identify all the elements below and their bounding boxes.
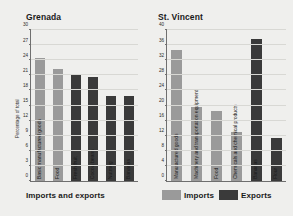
y-axis-tick-mark bbox=[165, 59, 167, 60]
y-axis-tick-label: 27 bbox=[23, 38, 28, 43]
bar-slot: Machinery and transportation equipment bbox=[187, 30, 207, 181]
legend-swatch-exports bbox=[219, 190, 238, 200]
gridline bbox=[31, 44, 138, 45]
y-axis-tick-label: 12 bbox=[159, 129, 164, 134]
chart-panel-grenada: Grenada Percentage of total Basic manufa… bbox=[0, 0, 148, 216]
y-axis-tick-label: 40 bbox=[159, 23, 164, 28]
chart-title-grenada: Grenada bbox=[26, 12, 61, 22]
gridline bbox=[167, 89, 286, 90]
y-axis-title-grenada: Percentage of total bbox=[16, 99, 21, 138]
gridline bbox=[31, 165, 138, 166]
bar-slot: Flour bbox=[266, 30, 286, 181]
plot-area-grenada: Basic manufactured goodsFoodFresh fruitC… bbox=[30, 30, 138, 182]
y-axis-tick-mark bbox=[29, 165, 31, 166]
bar-slot: Basic manufactured goods bbox=[31, 30, 49, 181]
y-axis-tick-mark bbox=[29, 44, 31, 45]
y-axis-tick-label: 28 bbox=[159, 68, 164, 73]
y-axis-tick-mark bbox=[29, 150, 31, 151]
y-axis-tick-mark bbox=[29, 59, 31, 60]
chart-title-stvincent: St. Vincent bbox=[158, 12, 203, 22]
y-axis-tick-mark bbox=[29, 89, 31, 90]
bar-slot: Bananas bbox=[120, 30, 138, 181]
bar-group-stvincent: Manufactured goodsMachinery and transpor… bbox=[167, 30, 286, 181]
y-axis-tick-mark bbox=[165, 165, 167, 166]
legend-label-imports: Imports bbox=[184, 191, 214, 200]
y-axis-tick-mark bbox=[165, 180, 167, 181]
legend-item-exports: Exports bbox=[219, 190, 272, 200]
legend-swatch-imports bbox=[162, 190, 181, 200]
bar-category-label: Nutmeg bbox=[109, 161, 114, 179]
figure-caption: Imports and exports bbox=[26, 191, 105, 200]
y-axis-tick-label: 0 bbox=[161, 174, 164, 179]
y-axis-tick-label: 6 bbox=[25, 144, 28, 149]
bar-category-label: Flour bbox=[274, 168, 279, 179]
y-axis-tick-mark bbox=[165, 150, 167, 151]
y-axis-tick-mark bbox=[165, 74, 167, 75]
y-axis-tick-label: 36 bbox=[159, 38, 164, 43]
gridline bbox=[31, 59, 138, 60]
chart-panel-stvincent: St. Vincent Manufactured goodsMachinery … bbox=[148, 0, 293, 216]
y-axis-tick-label: 20 bbox=[159, 99, 164, 104]
figure-imports-and-exports: Grenada Percentage of total Basic manufa… bbox=[0, 0, 293, 216]
bar-group-grenada: Basic manufactured goodsFoodFresh fruitC… bbox=[31, 30, 138, 181]
y-axis-tick-label: 18 bbox=[23, 84, 28, 89]
bar-slot: Manufactured goods bbox=[167, 30, 187, 181]
gridline bbox=[167, 150, 286, 151]
gridline bbox=[31, 29, 138, 30]
y-axis-tick-label: 4 bbox=[161, 159, 164, 164]
bar-slot: Cocoa beans bbox=[85, 30, 103, 181]
bar-category-label: Chemicals and chemical products bbox=[234, 104, 239, 179]
gridline bbox=[167, 29, 286, 30]
gridline bbox=[167, 44, 286, 45]
y-axis-tick-mark bbox=[29, 180, 31, 181]
y-axis-tick-mark bbox=[165, 89, 167, 90]
gridline bbox=[31, 120, 138, 121]
y-axis-tick-label: 3 bbox=[25, 159, 28, 164]
y-axis-tick-label: 24 bbox=[23, 53, 28, 58]
y-axis-tick-mark bbox=[29, 29, 31, 30]
y-axis-tick-mark bbox=[165, 44, 167, 45]
plot-area-stvincent: Manufactured goodsMachinery and transpor… bbox=[166, 30, 286, 182]
y-axis-tick-mark bbox=[165, 105, 167, 106]
bar-category-label: Fresh fruit bbox=[73, 156, 78, 179]
bar-category-label: Bananas bbox=[126, 159, 131, 179]
gridline bbox=[167, 165, 286, 166]
bar-slot: Food bbox=[49, 30, 67, 181]
bar-slot: Bananas bbox=[246, 30, 266, 181]
legend-item-imports: Imports bbox=[162, 190, 214, 200]
y-axis-tick-mark bbox=[29, 120, 31, 121]
legend: Imports Exports bbox=[162, 190, 272, 200]
y-axis-tick-mark bbox=[165, 120, 167, 121]
y-axis-tick-mark bbox=[29, 74, 31, 75]
y-axis-tick-mark bbox=[29, 135, 31, 136]
y-axis-tick-label: 24 bbox=[159, 84, 164, 89]
gridline bbox=[31, 105, 138, 106]
gridline bbox=[167, 74, 286, 75]
y-axis-tick-label: 30 bbox=[23, 23, 28, 28]
gridline bbox=[167, 105, 286, 106]
y-axis-tick-label: 12 bbox=[23, 114, 28, 119]
gridline bbox=[31, 74, 138, 75]
bar-category-label: Bananas bbox=[254, 159, 259, 179]
bar-slot: Chemicals and chemical products bbox=[227, 30, 247, 181]
y-axis-tick-mark bbox=[165, 135, 167, 136]
bar-category-label: Manufactured goods bbox=[174, 133, 179, 179]
y-axis-tick-label: 9 bbox=[25, 129, 28, 134]
bar-slot: Fresh fruit bbox=[67, 30, 85, 181]
y-axis-tick-label: 8 bbox=[161, 144, 164, 149]
legend-label-exports: Exports bbox=[241, 191, 272, 200]
gridline bbox=[167, 120, 286, 121]
bar-category-label: Food bbox=[55, 167, 60, 179]
y-axis-tick-label: 16 bbox=[159, 114, 164, 119]
bar-slot: Food bbox=[207, 30, 227, 181]
bar-category-label: Food bbox=[214, 168, 219, 179]
y-axis-tick-label: 21 bbox=[23, 68, 28, 73]
bar-slot: Nutmeg bbox=[102, 30, 120, 181]
gridline bbox=[167, 135, 286, 136]
y-axis-tick-label: 0 bbox=[25, 174, 28, 179]
y-axis-tick-mark bbox=[29, 105, 31, 106]
y-axis-tick-label: 32 bbox=[159, 53, 164, 58]
y-axis-tick-mark bbox=[165, 29, 167, 30]
gridline bbox=[31, 135, 138, 136]
gridline bbox=[31, 89, 138, 90]
